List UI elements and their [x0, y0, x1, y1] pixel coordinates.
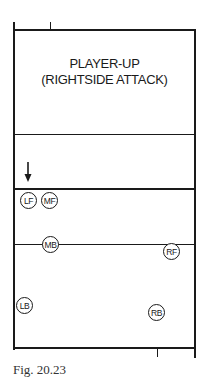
player-mb: MB: [42, 236, 59, 253]
court-bottom-line: [13, 347, 196, 349]
attack-line-opponent: [14, 134, 195, 135]
player-mf: MF: [41, 192, 58, 209]
volleyball-court-diagram: PLAYER-UP (RIGHTSIDE ATTACK) LF MF MB RF…: [0, 0, 209, 389]
player-lf: LF: [20, 192, 37, 209]
player-lb: LB: [16, 297, 33, 314]
center-line: [14, 188, 195, 190]
figure-caption: Fig. 20.23: [13, 362, 66, 378]
arrow-down-icon: [23, 160, 33, 184]
bottom-tick: [157, 348, 158, 357]
diagram-title-line2: (RIGHTSIDE ATTACK): [14, 72, 195, 88]
player-rf: RF: [163, 243, 180, 260]
diagram-title-line1: PLAYER-UP: [14, 56, 195, 72]
player-rb: RB: [148, 304, 165, 321]
top-tick: [50, 22, 51, 30]
court-top-line: [13, 29, 196, 31]
